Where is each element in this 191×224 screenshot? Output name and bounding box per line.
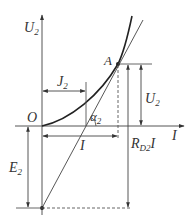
operating-point-diagram: U2 O A J2 α2 I I E2 U2 RD2I [0,0,191,224]
i-axis-label: I [171,128,178,143]
u2-axis-label: U2 [24,20,39,37]
j2-label: J2 [57,74,68,91]
alpha2-label: α2 [90,109,102,126]
characteristic-curve [42,16,132,126]
point-a-label: A [103,53,112,68]
current-i-label: I [79,138,86,153]
e2-label: E2 [8,160,23,177]
origin-label: O [27,110,37,125]
rd2i-label: RD2I [130,136,157,153]
u2-right-label: U2 [145,91,160,108]
